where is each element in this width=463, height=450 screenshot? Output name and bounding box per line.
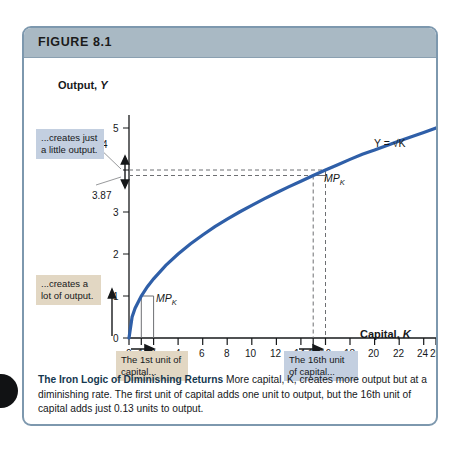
mpk-label-first-text: MP — [156, 292, 172, 304]
x-tick-label-25: 25 — [430, 348, 438, 359]
figure-caption: The Iron Logic of Diminishing Returns Mo… — [38, 373, 428, 417]
y-tick-label-2: 2 — [113, 249, 119, 260]
mpk-label-first: MPK — [156, 292, 177, 307]
callout-little-output: ...creates just a little output. — [36, 129, 104, 159]
y-tick-label-3: 3 — [113, 207, 119, 218]
x-tick-label-24: 24 — [417, 348, 428, 359]
plot-area: Output, Y Capital, K 0 1 2 3 4 5 3.87 0 … — [24, 57, 438, 367]
y-tick-label-0: 0 — [113, 333, 119, 344]
figure-frame: FIGURE 8.1 — [22, 26, 438, 426]
x-tick-label-12: 12 — [270, 348, 281, 359]
y-tick-label-387: 3.87 — [92, 190, 111, 201]
mpk-label-sixteenth-text: MP — [324, 172, 340, 184]
chart-svg — [24, 57, 438, 367]
x-tick-label-8: 8 — [224, 348, 230, 359]
callout-a-lot-output: ...creates a lot of output. — [36, 275, 101, 305]
guide-lines — [129, 170, 327, 338]
x-tick-label-6: 6 — [199, 348, 205, 359]
little-output-arrow — [121, 156, 128, 188]
mpk-label-sixteenth-subscript: K — [340, 178, 345, 187]
curve-equation-label: Y = √K — [374, 137, 406, 149]
x-tick-label-22: 22 — [393, 348, 404, 359]
y-tick-label-1: 1 — [113, 291, 119, 302]
y-tick-label-5: 5 — [113, 123, 119, 134]
figure-header-bar: FIGURE 8.1 — [24, 28, 436, 58]
mpk-label-sixteenth: MPK — [324, 172, 345, 187]
page-binding-mark — [0, 374, 18, 408]
mpk-label-first-subscript: K — [172, 298, 177, 307]
mpk-step-first — [141, 296, 153, 338]
x-tick-label-20: 20 — [368, 348, 379, 359]
x-tick-label-10: 10 — [245, 348, 256, 359]
figure-number: FIGURE 8.1 — [38, 35, 112, 49]
y-axis-title: Output, Y — [58, 79, 108, 91]
x-axis-title: Capital, K — [360, 328, 411, 340]
figure-caption-title: The Iron Logic of Diminishing Returns — [38, 374, 223, 385]
